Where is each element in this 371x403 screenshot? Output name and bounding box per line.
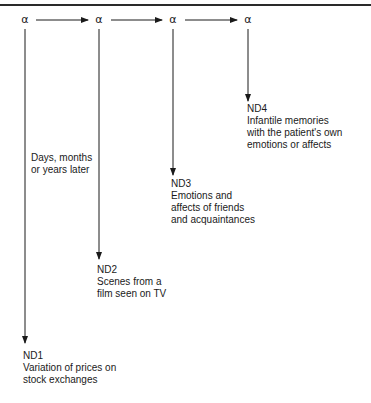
outcome-nd3: ND3 Emotions and affects of friends and … bbox=[171, 178, 255, 226]
time-lapse-line-1: Days, months bbox=[31, 152, 92, 164]
outcome-nd1-line-1: Variation of prices on bbox=[23, 362, 116, 374]
alpha-node-2: α bbox=[95, 14, 102, 25]
outcome-nd3-title: ND3 bbox=[171, 178, 255, 190]
outcome-nd3-line-1: Emotions and bbox=[171, 190, 255, 202]
outcome-nd4: ND4 Infantile memories with the patient'… bbox=[247, 103, 342, 151]
outcome-nd1: ND1 Variation of prices on stock exchang… bbox=[23, 350, 116, 386]
outcome-nd4-line-1: Infantile memories bbox=[247, 115, 342, 127]
outcome-nd3-line-2: affects of friends bbox=[171, 202, 255, 214]
alpha-node-1: α bbox=[21, 14, 28, 25]
outcome-nd1-line-2: stock exchanges bbox=[23, 374, 116, 386]
outcome-nd2-line-2: film seen on TV bbox=[97, 288, 166, 300]
outcome-nd2-title: ND2 bbox=[97, 264, 166, 276]
outcome-nd1-title: ND1 bbox=[23, 350, 116, 362]
outcome-nd4-line-2: with the patient's own bbox=[247, 127, 342, 139]
outcome-nd2-line-1: Scenes from a bbox=[97, 276, 166, 288]
outcome-nd4-title: ND4 bbox=[247, 103, 342, 115]
alpha-node-4: α bbox=[244, 14, 251, 25]
outcome-nd2: ND2 Scenes from a film seen on TV bbox=[97, 264, 166, 300]
outcome-nd4-line-3: emotions or affects bbox=[247, 139, 342, 151]
time-lapse-label: Days, months or years later bbox=[31, 152, 92, 176]
time-lapse-line-2: or years later bbox=[31, 164, 92, 176]
alpha-node-3: α bbox=[169, 14, 176, 25]
outcome-nd3-line-3: and acquaintances bbox=[171, 214, 255, 226]
